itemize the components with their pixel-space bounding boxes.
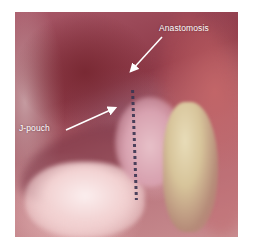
anastomosis-label: Anastomosis [159,23,209,33]
j-pouch-label: J-pouch [19,123,50,133]
mesenteric-fat [163,102,218,232]
